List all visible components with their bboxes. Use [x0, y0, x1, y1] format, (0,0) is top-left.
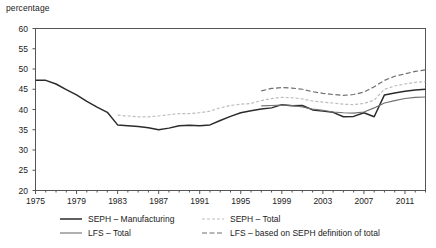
dashed-gray-line-icon [202, 228, 224, 238]
x-axis-tick-label: 1987 [139, 196, 179, 206]
chart-figure: percentage 202530354045505560 1975197919… [0, 0, 436, 248]
legend-entry[interactable]: LFS – based on SEPH definition of total [202, 226, 380, 240]
legend-label: LFS – Total [88, 228, 131, 238]
x-axis-tick-label: 1979 [57, 196, 97, 206]
chart-legend: SEPH – ManufacturingLFS – Total SEPH – T… [0, 212, 436, 248]
y-axis-tick-label: 40 [6, 105, 28, 115]
series-line-2 [118, 82, 426, 117]
plot-area: 202530354045505560 197519791983198719911… [0, 0, 436, 210]
legend-column-right: SEPH – TotalLFS – based on SEPH definiti… [202, 212, 380, 240]
x-axis-tick-label: 2003 [303, 196, 343, 206]
series-line-0 [36, 80, 426, 129]
series-line-1 [261, 97, 425, 113]
x-axis-tick-label: 1999 [262, 196, 302, 206]
legend-entry[interactable]: SEPH – Total [202, 212, 380, 226]
plot-frame [36, 29, 426, 191]
legend-entry[interactable]: LFS – Total [60, 226, 174, 240]
y-axis-tick-label: 50 [6, 64, 28, 74]
plot-svg [0, 0, 436, 210]
y-axis-tick-label: 25 [6, 165, 28, 175]
solid-gray-line-icon [60, 228, 82, 238]
legend-label: LFS – based on SEPH definition of total [230, 228, 380, 238]
y-axis-tick-label: 30 [6, 145, 28, 155]
x-axis-tick-label: 2007 [344, 196, 384, 206]
y-axis-tick-label: 20 [6, 186, 28, 196]
dotted-light-line-icon [202, 214, 224, 224]
x-axis-tick-label: 1995 [221, 196, 261, 206]
x-axis-tick-label: 1983 [98, 196, 138, 206]
x-axis-tick-label: 1991 [180, 196, 220, 206]
legend-label: SEPH – Total [230, 214, 280, 224]
y-axis-tick-label: 35 [6, 125, 28, 135]
legend-label: SEPH – Manufacturing [88, 214, 174, 224]
y-axis-tick-label: 60 [6, 24, 28, 34]
legend-entry[interactable]: SEPH – Manufacturing [60, 212, 174, 226]
solid-dark-line-icon [60, 214, 82, 224]
y-axis-tick-label: 45 [6, 84, 28, 94]
x-axis-tick-label: 1975 [16, 196, 56, 206]
y-axis-tick-label: 55 [6, 44, 28, 54]
legend-column-left: SEPH – ManufacturingLFS – Total [60, 212, 174, 240]
x-axis-tick-label: 2011 [385, 196, 425, 206]
